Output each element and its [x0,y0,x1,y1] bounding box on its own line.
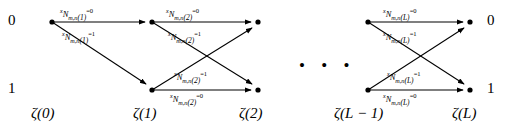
edge-label-stage2-bottom-value0: xNm,n(2)=0 [170,92,203,107]
node-stageL-state0 [467,19,472,24]
edge-label-stage2-top-value0: xNm,n(2)=0 [166,7,199,22]
node-stageL-state1 [467,87,472,92]
ellipsis-dots: • • • [299,57,355,74]
edge-label-stage-arg: (2) [187,98,196,107]
edge-label-stage1-value0: xNm,n(1)=0 [60,7,93,22]
edge-label-equals-value: =0 [86,7,93,14]
edge-label-equals-value: =0 [410,92,417,99]
stage-label-L-minus-1: ζ(L − 1) [334,105,383,122]
edge-label-stageL-bottom-value0: xNm,n(L)=0 [383,92,417,107]
trellis-diagram: 0 1 0 1 • • • ζ(0) ζ(1) ζ(2) ζ(L − 1) ζ(… [0,0,511,132]
edge-label-equals-value: =1 [414,70,421,77]
edge-label-stage-arg: (L) [400,13,409,22]
edge-label-stageL-top-value1: xNm,n(L)=1 [383,30,417,45]
edge-label-equals-value: =0 [196,92,203,99]
stage-label-L: ζ(L) [452,105,476,122]
edge-label-equals-value: =1 [88,30,95,37]
stage-label-1: ζ(1) [133,105,157,122]
edge-label-equals-value: =0 [192,7,199,14]
edge-label-stageL-bottom-value1: xNm,n(L)=1 [387,70,421,85]
state-label-1-left: 1 [8,80,16,97]
edge-label-stageL-top-value0: xNm,n(L)=0 [383,7,417,22]
edge-label-equals-value: =0 [410,7,417,14]
edge-label-stage-arg: (1) [77,13,86,22]
edge-label-equals-value: =1 [200,70,207,77]
edge-label-stage-arg: (2) [191,76,200,85]
edge-label-stage-arg: (L) [400,98,409,107]
edge-label-stage2-top-value1: xNm,n(2)=1 [168,30,201,45]
edge-label-stage-arg: (L) [404,76,413,85]
edge-label-stage-arg: (2) [185,36,194,45]
edge-label-stage2-bottom-value1: xNm,n(2)=1 [174,70,207,85]
stage-label-0: ζ(0) [31,105,55,122]
edge-label-stage-arg: (L) [400,36,409,45]
stage-label-2: ζ(2) [239,105,263,122]
edge-label-equals-value: =1 [194,30,201,37]
edge-label-stage-arg: (2) [183,13,192,22]
state-label-1-right: 1 [487,80,495,97]
edge-label-stage-arg: (1) [79,36,88,45]
edge-label-stage1-value1: xNm,n(1)=1 [62,30,95,45]
edge-label-equals-value: =1 [410,30,417,37]
state-label-0-right: 0 [487,12,495,29]
node-stage2-state1 [255,87,260,92]
node-stage2-state0 [255,19,260,24]
state-label-0-left: 0 [8,12,16,29]
